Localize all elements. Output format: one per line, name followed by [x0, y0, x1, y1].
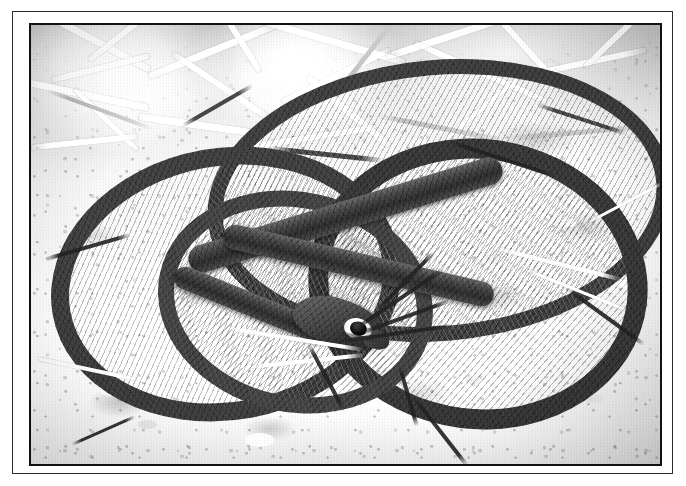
photo-film-grain: [31, 25, 660, 464]
photograph: [31, 25, 660, 464]
photo-page: [0, 0, 686, 486]
photo-frame: [29, 23, 662, 466]
